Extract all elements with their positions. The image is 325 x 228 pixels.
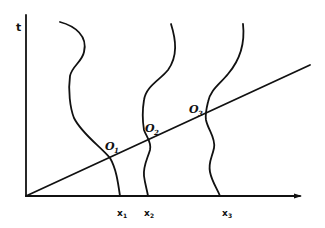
- svg-text:1: 1: [123, 212, 127, 219]
- svg-text:2: 2: [150, 212, 154, 219]
- x-axis-arrowhead-icon: [294, 194, 302, 199]
- foot-label-x3: x 3: [222, 208, 232, 219]
- intersection-label-o3: O 3: [189, 103, 203, 118]
- foot-label-x1: x 1: [117, 208, 127, 219]
- t-axis-label: t: [16, 21, 21, 34]
- svg-text:3: 3: [198, 109, 203, 118]
- curve-1: [60, 22, 120, 196]
- intersection-label-o2: O 2: [145, 122, 159, 137]
- foot-label-x2: x 2: [144, 208, 154, 219]
- intersection-label-o1: O 1: [105, 140, 119, 155]
- svg-text:2: 2: [153, 128, 159, 137]
- svg-text:1: 1: [114, 146, 119, 155]
- worldline-diagram: t O 1 O 2 O 3 x 1 x 2 x 3: [0, 0, 325, 228]
- svg-text:3: 3: [228, 212, 232, 219]
- curve-2: [143, 24, 175, 196]
